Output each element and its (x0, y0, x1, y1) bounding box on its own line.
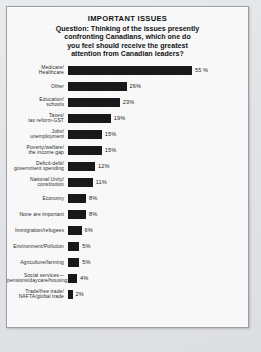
bar-category-label: Jobs/ unemployment (7, 129, 68, 140)
bar-row: Other26% (7, 82, 248, 91)
bar-track: 8% (68, 194, 248, 203)
bar (68, 130, 102, 139)
bar (68, 66, 192, 75)
bar-row: National Unity/ constitution11% (7, 178, 248, 187)
bar-row: None are important8% (7, 210, 248, 219)
bar-category-label: Economy (7, 196, 68, 201)
bar-category-label: Poverty/welfare/ the income gap (7, 145, 68, 156)
bar (68, 242, 79, 251)
bar-row: Education/ schools23% (7, 98, 248, 107)
bar-value-label: 26% (130, 83, 142, 89)
bar-row: Trade/free trade/ NAFTA/global trade2% (7, 290, 248, 299)
bar-track: 19% (68, 114, 248, 123)
bar-track: 15% (68, 146, 248, 155)
chart-question-line: you feel should receive the greatest (22, 42, 233, 51)
bar-value-label: 15% (105, 131, 117, 137)
bar-track: 4% (68, 274, 248, 283)
bar (68, 258, 79, 267)
bar-value-label: 2% (76, 291, 84, 297)
bar-value-label: 15% (105, 147, 117, 153)
bar-value-label: 6% (85, 227, 93, 233)
chart-question-line: Question: Thinking of the issues present… (22, 25, 233, 34)
bar-category-label: Medicare/ Healthcare (7, 65, 68, 76)
bar-row: Social services— pensions/daycare/housin… (7, 274, 248, 283)
bar-value-label: 55 % (195, 67, 208, 73)
bar (68, 146, 102, 155)
bar-track: 11% (68, 178, 248, 187)
bar-row: Agriculture/farming5% (7, 258, 248, 267)
bar-track: 2% (68, 290, 248, 299)
bar (68, 82, 127, 91)
bar-category-label: Social services— pensions/daycare/housin… (7, 273, 68, 284)
bar-row: Deficit-debt/ government spending12% (7, 162, 248, 171)
bar-value-label: 23% (123, 99, 135, 105)
bar-category-label: Taxes/ tax reform-GST (7, 113, 68, 124)
bar-value-label: 4% (80, 275, 88, 281)
bar-category-label: Deficit-debt/ government spending (7, 161, 68, 172)
chart-question-line: attention from Canadian leaders? (22, 50, 233, 59)
bar-track: 5% (68, 242, 248, 251)
bar (68, 178, 93, 187)
bar (68, 210, 86, 219)
bar-category-label: Immigration/refugees (7, 228, 68, 233)
bar (68, 274, 77, 283)
bar-category-label: National Unity/ constitution (7, 177, 68, 188)
bar-category-label: Environment/Pollution (7, 244, 68, 249)
bar-value-label: 8% (89, 195, 97, 201)
chart-question-line: confronting Canadians, which one do (22, 33, 233, 42)
poster-background: IMPORTANT ISSUES Question: Thinking of t… (0, 0, 261, 352)
bar-track: 8% (68, 210, 248, 219)
bar-track: 26% (68, 82, 248, 91)
bar (68, 114, 111, 123)
bar-category-label: Education/ schools (7, 97, 68, 108)
bar (68, 226, 82, 235)
bar-value-label: 5% (82, 243, 90, 249)
bar-row: Economy8% (7, 194, 248, 203)
bar-value-label: 8% (89, 211, 97, 217)
bar-value-label: 12% (98, 163, 110, 169)
bar-row: Taxes/ tax reform-GST19% (7, 114, 248, 123)
bar-track: 55 % (68, 66, 248, 75)
bar-category-label: Trade/free trade/ NAFTA/global trade (7, 289, 68, 300)
bar-track: 15% (68, 130, 248, 139)
bar-row: Medicare/ Healthcare55 % (7, 66, 248, 75)
bar-value-label: 11% (96, 179, 107, 185)
chart-question: Question: Thinking of the issues present… (16, 25, 239, 59)
bar-row: Poverty/welfare/ the income gap15% (7, 146, 248, 155)
bar-category-label: Agriculture/farming (7, 260, 68, 265)
chart-title: IMPORTANT ISSUES (16, 14, 239, 23)
bar-category-label: Other (7, 84, 68, 89)
bar (68, 98, 120, 107)
bar-track: 23% (68, 98, 248, 107)
bar (68, 194, 86, 203)
bar-row: Jobs/ unemployment15% (7, 130, 248, 139)
bar-track: 5% (68, 258, 248, 267)
bar-category-label: None are important (7, 212, 68, 217)
chart-frame: IMPORTANT ISSUES Question: Thinking of t… (6, 6, 249, 328)
bar-value-label: 5% (82, 259, 90, 265)
bar-track: 12% (68, 162, 248, 171)
bar-value-label: 19% (114, 115, 126, 121)
bar-track: 6% (68, 226, 248, 235)
bar-chart-plot: Medicare/ Healthcare55 %Other26%Educatio… (7, 66, 248, 299)
bar (68, 162, 95, 171)
chart-header: IMPORTANT ISSUES Question: Thinking of t… (7, 7, 248, 61)
bar (68, 290, 73, 299)
bar-row: Immigration/refugees6% (7, 226, 248, 235)
bar-row: Environment/Pollution5% (7, 242, 248, 251)
